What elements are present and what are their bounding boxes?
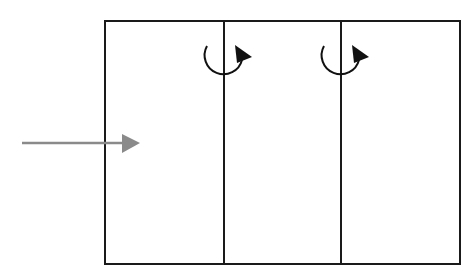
input-arrow-icon [22, 134, 140, 153]
outer-container [105, 21, 460, 264]
rotation-arrow-icon [322, 45, 369, 74]
rotation-arrow-icon [205, 45, 252, 74]
diagram-canvas [0, 0, 475, 274]
